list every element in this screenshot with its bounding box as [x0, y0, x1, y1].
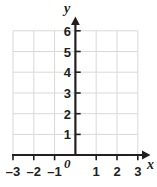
y-tick-label-6: 6 — [54, 25, 71, 38]
x-tick-label--3: –3 — [6, 165, 20, 178]
x-axis-label: x — [147, 158, 154, 172]
x-tick-label--2: –2 — [27, 165, 41, 178]
origin-label: 0 — [64, 157, 71, 170]
coordinate-plane-graph: –3 –2 –1 1 2 3 6 5 4 3 2 1 0 y x — [0, 0, 157, 187]
y-axis-label: y — [64, 2, 70, 16]
x-tick-label-3: 3 — [134, 165, 141, 178]
graph-canvas — [0, 0, 157, 187]
y-tick-label-5: 5 — [54, 45, 71, 58]
x-tick-label--1: –1 — [47, 165, 61, 178]
y-tick-label-3: 3 — [54, 87, 71, 100]
y-tick-label-2: 2 — [54, 107, 71, 120]
x-tick-label-1: 1 — [93, 165, 100, 178]
x-tick-label-2: 2 — [113, 165, 120, 178]
y-tick-label-1: 1 — [54, 128, 71, 141]
y-tick-label-4: 4 — [54, 66, 71, 79]
